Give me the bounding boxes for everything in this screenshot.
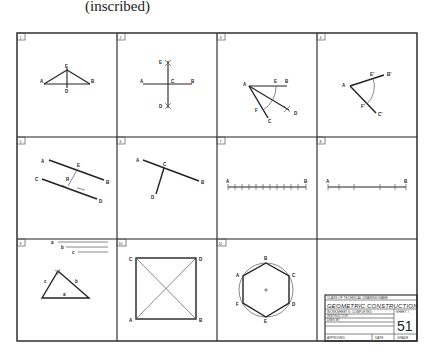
cell-3-bisect-angle: A E B F C D [243, 79, 298, 124]
svg-text:E: E [264, 319, 267, 324]
svg-text:A: A [136, 158, 140, 163]
svg-text:B: B [285, 79, 289, 84]
svg-text:E': E' [370, 72, 374, 77]
svg-text:A: A [129, 318, 133, 323]
svg-text:A: A [243, 82, 247, 87]
cell-number-4: 4 [317, 33, 325, 40]
svg-text:C: C [292, 273, 296, 278]
svg-text:a: a [63, 292, 66, 297]
cell-number-10: 10 [117, 239, 126, 246]
svg-text:R: R [66, 177, 70, 182]
svg-text:A: A [342, 83, 346, 88]
svg-text:E: E [159, 60, 162, 65]
svg-text:3: 3 [220, 36, 222, 40]
cell-9-triangle-three-sides: a b c a b c [42, 240, 108, 298]
svg-text:A: A [40, 79, 44, 84]
svg-text:E: E [274, 79, 277, 84]
svg-text:B: B [304, 179, 308, 184]
svg-text:B: B [201, 180, 205, 185]
cell-number-5: 5 [17, 137, 25, 144]
title-block-date: DATE [375, 336, 383, 340]
svg-text:D: D [65, 89, 69, 94]
cell-4-transfer-angle: A E' B' F' C' [342, 72, 391, 117]
svg-text:A: A [140, 79, 144, 84]
svg-text:C: C [171, 79, 175, 84]
svg-text:A: A [326, 179, 330, 184]
cell-number-2: 2 [117, 33, 125, 40]
svg-text:10: 10 [119, 242, 123, 246]
cell-number-8: 8 [317, 137, 325, 144]
svg-text:1: 1 [20, 36, 22, 40]
cell-number-6: 6 [117, 137, 125, 144]
svg-text:11: 11 [219, 242, 223, 246]
svg-text:F: F [236, 302, 239, 307]
svg-text:a: a [51, 240, 54, 245]
svg-text:C: C [268, 119, 272, 124]
svg-text:B: B [91, 79, 95, 84]
svg-text:E: E [77, 163, 80, 168]
svg-text:2: 2 [120, 36, 122, 40]
svg-text:C: C [129, 257, 133, 262]
cell-6-perpendicular-from-point: A B C D [136, 158, 205, 200]
cell-11-inscribed-hexagon: B C D E F A [236, 256, 296, 324]
cell-number-7: 7 [217, 137, 225, 144]
cell-7-divide-line-equal-parts: A B [226, 179, 308, 190]
cell-1-bisect-line: A B E D [40, 64, 95, 94]
svg-text:B': B' [387, 72, 391, 77]
title-block-drawn-by: DWG BY [327, 318, 341, 322]
svg-text:D: D [151, 195, 155, 200]
cell-number-1: 1 [17, 33, 25, 40]
svg-text:A: A [236, 273, 240, 278]
svg-text:C: C [163, 162, 167, 167]
svg-text:D: D [159, 104, 163, 109]
svg-text:7: 7 [220, 140, 222, 144]
cell-number-9: 9 [17, 239, 25, 246]
svg-text:6: 6 [120, 140, 122, 144]
cell-number-11: 11 [217, 239, 226, 246]
svg-text:D: D [99, 199, 103, 204]
svg-text:C: C [35, 177, 39, 182]
svg-text:9: 9 [20, 242, 22, 246]
cell-8-divide-line-proportional: A B [326, 179, 408, 190]
title-block-grade: GRADE [397, 336, 408, 340]
svg-text:c: c [72, 250, 75, 255]
title-block: CLASS OF TECHNICAL DRAWING NAME GEOMETRI… [325, 295, 418, 341]
title-block-approved: APPROVED [327, 336, 345, 340]
svg-text:F: F [255, 108, 258, 113]
cell-5-parallel-line: A B C D E R [35, 159, 110, 204]
cell-2-perpendicular-bisector: A B C E D [140, 60, 195, 109]
svg-text:D: D [294, 111, 298, 116]
svg-text:B: B [191, 79, 195, 84]
svg-text:8: 8 [320, 140, 322, 144]
title-block-sheet-label: SHEET # [396, 310, 409, 314]
svg-text:A: A [41, 159, 45, 164]
svg-text:E: E [65, 64, 68, 69]
svg-text:A: A [226, 179, 230, 184]
svg-text:B: B [264, 256, 268, 261]
construction-sheet: 1 2 3 4 5 6 7 8 9 10 11 A B E D A B C E … [0, 0, 434, 358]
svg-text:D: D [292, 302, 296, 307]
svg-text:B: B [106, 180, 110, 185]
svg-text:F': F' [361, 104, 365, 109]
title-block-school: CLASS OF TECHNICAL DRAWING NAME [327, 296, 388, 300]
svg-text:5: 5 [20, 140, 22, 144]
title-block-title: GEOMETRIC CONSTRUCTION [327, 303, 418, 309]
svg-text:D: D [199, 257, 203, 262]
svg-text:b: b [75, 279, 78, 284]
cell-10-square: C D A B [129, 257, 203, 323]
svg-text:4: 4 [320, 36, 322, 40]
svg-text:B: B [404, 179, 408, 184]
title-block-sheet-number: 51 [397, 318, 413, 334]
cell-number-3: 3 [217, 33, 225, 40]
svg-text:C': C' [378, 112, 382, 117]
svg-text:b: b [61, 245, 64, 250]
svg-text:B: B [199, 318, 203, 323]
cell-number-boxes: 1 2 3 4 5 6 7 8 9 10 11 [17, 33, 325, 246]
svg-text:c: c [44, 279, 47, 284]
